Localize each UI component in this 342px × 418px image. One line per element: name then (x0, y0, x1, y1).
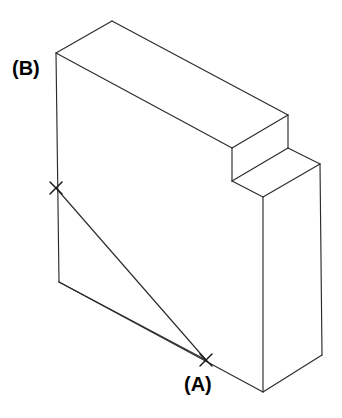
point-b-label: (B) (12, 58, 40, 78)
point-a-label: (A) (184, 374, 212, 394)
solid-faces (56, 21, 322, 392)
technical-drawing-figure: (B) (A) (0, 0, 342, 418)
face-right-block-front (263, 164, 322, 392)
isometric-block-drawing (0, 0, 342, 418)
